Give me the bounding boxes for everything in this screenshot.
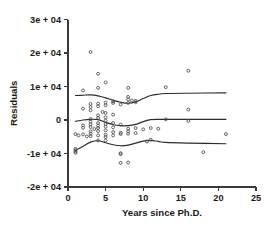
data-point <box>82 107 85 110</box>
data-point <box>93 128 96 131</box>
data-point <box>89 51 92 54</box>
data-point <box>187 108 190 111</box>
chart-canvas: -2e + 04-1e + 0401e + 042e + 043e + 04 0… <box>0 0 268 231</box>
x-tick-label: 5 <box>103 193 108 203</box>
data-point <box>112 113 115 116</box>
data-point <box>104 129 107 132</box>
data-point <box>130 99 133 102</box>
data-point <box>112 126 115 129</box>
y-axis-title: Residuals <box>8 81 19 126</box>
data-point <box>82 89 85 92</box>
data-point <box>119 161 122 164</box>
x-tick-label: 15 <box>176 193 186 203</box>
data-point <box>97 72 100 75</box>
data-point <box>89 102 92 105</box>
y-tick-label: -2e + 04 <box>27 182 62 192</box>
x-tick-label: 0 <box>65 193 70 203</box>
x-axis-tick-labels: 0510152025 <box>65 193 261 203</box>
data-point <box>85 135 88 138</box>
data-point <box>112 131 115 134</box>
data-point <box>127 86 130 89</box>
y-tick-label: 1e + 04 <box>30 82 62 92</box>
x-axis-ticks <box>68 187 256 191</box>
y-axis-tick-labels: -2e + 04-1e + 0401e + 042e + 043e + 04 <box>27 15 62 193</box>
data-point <box>104 116 107 119</box>
data-point <box>202 151 205 154</box>
data-point <box>97 86 100 89</box>
axes <box>64 20 256 192</box>
y-tick-label: 0 <box>56 115 61 125</box>
data-point <box>104 119 107 122</box>
data-point <box>77 134 80 137</box>
residual-scatter-figure: -2e + 04-1e + 0401e + 042e + 043e + 04 0… <box>0 0 268 231</box>
y-tick-label: 2e + 04 <box>30 48 62 58</box>
data-point <box>164 86 167 89</box>
data-point <box>112 122 115 125</box>
data-point <box>74 133 77 136</box>
data-point <box>149 127 152 130</box>
data-point <box>89 109 92 112</box>
data-point <box>157 127 160 130</box>
data-point <box>101 111 104 114</box>
data-point <box>89 105 92 108</box>
data-point <box>82 133 85 136</box>
x-tick-label: 10 <box>138 193 148 203</box>
data-point <box>187 69 190 72</box>
x-tick-label: 25 <box>251 193 261 203</box>
data-point <box>142 128 145 131</box>
data-point <box>224 133 227 136</box>
x-tick-label: 20 <box>213 193 223 203</box>
data-point <box>104 139 107 142</box>
data-point <box>104 112 107 115</box>
y-tick-label: 3e + 04 <box>30 15 62 25</box>
data-point <box>112 134 115 137</box>
data-point <box>134 127 137 130</box>
data-point <box>97 130 100 133</box>
data-point <box>119 103 122 106</box>
y-axis-ticks <box>64 20 68 188</box>
x-axis-title: Years since Ph.D. <box>122 207 202 218</box>
data-point <box>104 81 107 84</box>
data-point <box>134 132 137 135</box>
upper-quantile-smooth <box>76 93 226 103</box>
scatter-points <box>74 51 227 165</box>
y-tick-label: -1e + 04 <box>27 149 62 159</box>
data-point <box>127 161 130 164</box>
data-point <box>97 134 100 137</box>
data-point <box>187 120 190 123</box>
